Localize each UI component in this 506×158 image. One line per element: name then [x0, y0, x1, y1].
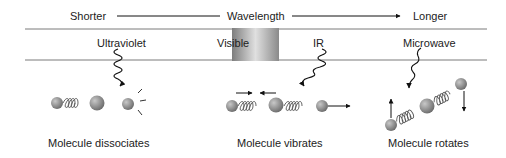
ir-label: IR [313, 38, 324, 49]
microwave-label: Microwave [403, 38, 456, 49]
vibrates-caption: Molecule vibrates [237, 138, 323, 149]
visible-label: Visible [217, 38, 249, 49]
longer-label: Longer [413, 11, 447, 22]
ir-photon-wave-icon [303, 49, 326, 86]
rotates-caption: Molecule rotates [388, 138, 469, 149]
ultraviolet-label: Ultraviolet [97, 38, 146, 49]
uv-photon-wave-icon [114, 49, 122, 86]
microwave-molecule-icon [385, 78, 467, 131]
wavelength-label: Wavelength [227, 11, 285, 22]
dissociates-caption: Molecule dissociates [48, 138, 150, 149]
shorter-label: Shorter [70, 11, 106, 22]
spectrum-diagram [0, 0, 506, 158]
microwave-photon-wave-icon [409, 48, 421, 88]
ir-molecule-icon [226, 93, 350, 113]
uv-molecule-icon [51, 89, 146, 115]
